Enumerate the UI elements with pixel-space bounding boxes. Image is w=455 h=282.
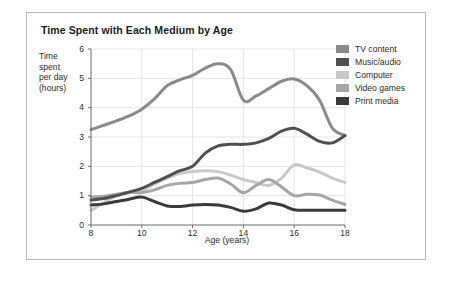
- legend-swatch-icon: [336, 71, 349, 79]
- y-tick-label: 6: [66, 45, 84, 54]
- legend-item-music-audio[interactable]: Music/audio: [336, 55, 455, 68]
- y-tick-label: 3: [66, 133, 84, 142]
- chart-svg: [91, 49, 345, 225]
- y-axis-title-line-2: spent: [39, 62, 87, 73]
- legend-item-label: Print media: [355, 96, 398, 106]
- y-tick-label: 1: [66, 191, 84, 200]
- legend-item-computer[interactable]: Computer: [336, 68, 455, 81]
- y-axis-title-line-4: (hours): [39, 83, 87, 94]
- y-tick-label: 5: [66, 74, 84, 83]
- y-tick-label: 2: [66, 162, 84, 171]
- chart-legend: TV contentMusic/audioComputerVideo games…: [336, 42, 455, 107]
- x-axis-title: Age (years): [27, 235, 427, 245]
- legend-item-tv-content[interactable]: TV content: [336, 42, 455, 55]
- series-line-music-audio: [91, 128, 345, 200]
- chart-title: Time Spent with Each Medium by Age: [41, 24, 233, 36]
- legend-item-label: Video games: [355, 83, 405, 93]
- legend-item-label: Computer: [355, 70, 393, 80]
- legend-swatch-icon: [336, 45, 349, 53]
- y-tick-label: 4: [66, 103, 84, 112]
- legend-swatch-icon: [336, 58, 349, 66]
- legend-item-label: Music/audio: [355, 57, 401, 67]
- legend-item-label: TV content: [355, 44, 397, 54]
- series-line-computer: [91, 164, 345, 210]
- series-line-print-media: [91, 197, 345, 211]
- legend-item-video-games[interactable]: Video games: [336, 81, 455, 94]
- series-line-tv-content: [91, 64, 345, 136]
- legend-item-print-media[interactable]: Print media: [336, 94, 455, 107]
- page-root: Time Spent with Each Medium by Age Time …: [0, 0, 455, 282]
- legend-swatch-icon: [336, 84, 349, 92]
- plot-area: [91, 49, 345, 225]
- legend-swatch-icon: [336, 97, 349, 105]
